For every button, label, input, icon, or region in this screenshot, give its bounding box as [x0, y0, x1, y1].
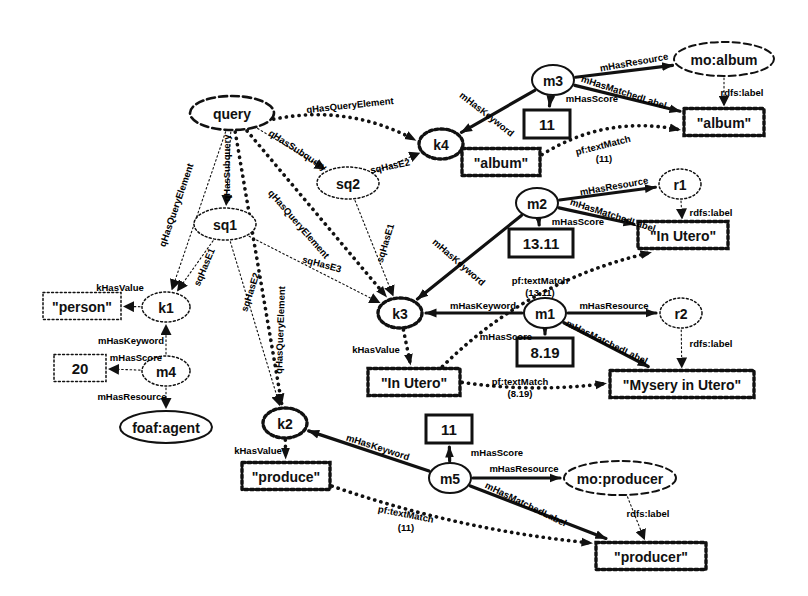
node-m3[interactable]: m3 [532, 65, 574, 95]
node-k2[interactable]: k2 [263, 408, 307, 438]
edge-label-el_q_k1: qHasQueryElement [157, 161, 196, 248]
node-label-m2: m2 [527, 196, 547, 212]
edge-label-el_m1_s: mHasScore [480, 331, 532, 342]
edge-label-el_m4_k1: mHasKeyword [98, 335, 164, 346]
rdf-graph-svg: querysq1sq2k1k2k3k4m1m2m3m4m5r1r2mo:albu… [0, 0, 808, 596]
diagram-canvas: querysq1sq2k1k2k3k4m1m2m3m4m5r1r2mo:albu… [0, 0, 808, 596]
node-m5[interactable]: m5 [429, 463, 471, 493]
node-label-n_11_m3: 11 [539, 116, 555, 133]
node-label-m5: m5 [440, 471, 460, 487]
node-b_album_k[interactable]: "album" [462, 149, 540, 176]
edge-label-el_k2_v: kHasValue [234, 445, 282, 456]
edge-r2-to-b_mysery [681, 330, 682, 367]
node-label-b_20: 20 [72, 360, 89, 377]
node-label-b_produce: "produce" [252, 469, 321, 485]
node-sq1[interactable]: sq1 [194, 208, 256, 240]
node-b_producer[interactable]: "producer" [596, 543, 706, 570]
node-b_mysery[interactable]: "Mysery in Utero" [610, 371, 754, 398]
edge-r1-to-b_inutero_r [681, 201, 682, 218]
node-b_person[interactable]: "person" [43, 293, 121, 320]
edge-label-el_m1_ml: mHasMatchedLabel [564, 317, 649, 366]
node-label-foaf_agent: foaf:agent [132, 420, 200, 436]
node-b_inutero_k[interactable]: "In Utero" [368, 369, 460, 396]
node-n_819_m1[interactable]: 8.19 [517, 338, 573, 366]
edge-label-el_sq1_k1: sqHasE1 [191, 246, 217, 288]
edge-label-el_m3_k: mHasKeyword [458, 89, 517, 138]
edge-label-el_m4_s: mHasScore [110, 352, 162, 363]
node-mo_album[interactable]: mo:album [674, 42, 774, 76]
edge-label-el_rdfs2: rdfs:label [690, 207, 733, 218]
edge-label-el_pf2b: (13.11) [525, 287, 555, 298]
edge-m2-to-n_1311_m2 [539, 220, 540, 225]
node-n_11_m5[interactable]: 11 [426, 415, 472, 443]
node-label-mo_producer: mo:producer [577, 471, 664, 487]
node-label-k3: k3 [392, 306, 408, 322]
edge-label-el_m1_r: mHasResource [579, 300, 648, 311]
node-b_produce[interactable]: "produce" [242, 463, 330, 490]
node-label-m4: m4 [156, 364, 176, 380]
node-n_1311_m2[interactable]: 13.11 [509, 229, 573, 257]
edge-m3-to-n_11_m3 [549, 97, 550, 106]
node-k3[interactable]: k3 [378, 298, 422, 328]
edge-label-el_pf3b: (8.19) [508, 388, 533, 399]
node-label-m3: m3 [543, 73, 563, 89]
node-k4[interactable]: k4 [419, 129, 463, 159]
edge-label-el_rdfs1: rdfs:label [721, 87, 764, 98]
edge-label-el_m2_s: mHasScore [552, 216, 604, 227]
node-label-b_album_k: "album" [474, 155, 529, 171]
edge-label-el_pf3: pf:textMatch [492, 376, 549, 387]
edge-label-el_q_sq1: qHasSubquery [221, 134, 232, 202]
node-label-r1: r1 [673, 177, 686, 193]
edge-label-el_rdfs4: rdfs:label [627, 508, 670, 519]
edge-label-el_pf1b: (11) [596, 153, 612, 164]
edge-label-el_m4_r: mHasResource [97, 391, 166, 402]
node-label-sq1: sq1 [213, 217, 237, 233]
node-b_20[interactable]: 20 [54, 355, 106, 382]
node-label-b_inutero_k: "In Utero" [381, 375, 447, 391]
edge-k3-to-b_inutero_k [403, 330, 410, 365]
node-label-b_person: "person" [52, 299, 112, 315]
edge-label-el_k1_v: kHasValue [96, 282, 144, 293]
edge-label-el_q_k2: qHasQueryElement [273, 285, 287, 374]
edge-label-el_k3_v: kHasValue [352, 344, 400, 355]
node-layer: querysq1sq2k1k2k3k4m1m2m3m4m5r1r2mo:albu… [43, 42, 774, 570]
edge-label-el_sq2_k4: sqHasE2 [369, 156, 411, 175]
node-label-n_1311_m2: 13.11 [523, 235, 560, 252]
node-label-n_11_m5: 11 [441, 421, 457, 438]
edge-label-el_m5_r: mHasResource [489, 463, 558, 474]
node-r1[interactable]: r1 [659, 169, 701, 199]
node-label-b_inutero_r: "In Utero" [650, 228, 716, 244]
node-m1[interactable]: m1 [524, 298, 566, 328]
node-label-k1: k1 [158, 300, 174, 316]
node-b_album_r[interactable]: "album" [684, 109, 764, 136]
node-r2[interactable]: r2 [660, 298, 702, 328]
node-n_11_m3[interactable]: 11 [524, 110, 570, 138]
edge-label-el_m1_k: mHasKeyword [450, 300, 516, 311]
edge-m4-to-b_20 [110, 369, 140, 370]
edge-label-el_rdfs3: rdfs:label [690, 338, 733, 349]
edge-m2-to-k3 [418, 216, 522, 299]
edge-label-el_sq1_k2: sqHasE2 [239, 271, 262, 313]
edge-label-el_sq2_k3: sqHasE1 [374, 222, 396, 264]
node-label-m1: m1 [535, 306, 555, 322]
edge-label-el_pf2: pf:textMatch [512, 275, 569, 286]
node-label-b_mysery: "Mysery in Utero" [623, 377, 741, 393]
node-label-k2: k2 [277, 416, 293, 432]
node-label-query: query [213, 106, 251, 122]
edge-query-to-k4 [274, 115, 416, 141]
edge-label-el_m5_ml: mHasMatchedLabel [483, 479, 568, 528]
node-label-sq2: sq2 [336, 176, 360, 192]
edge-label-el_pf4b: (11) [398, 522, 414, 533]
node-label-n_819_m1: 8.19 [530, 344, 559, 361]
node-m2[interactable]: m2 [516, 188, 558, 218]
node-label-b_album_r: "album" [697, 115, 752, 131]
node-label-b_producer: "producer" [614, 549, 688, 565]
node-label-mo_album: mo:album [691, 52, 758, 68]
node-label-k4: k4 [433, 137, 449, 153]
edge-label-el_m5_s: mHasScore [471, 447, 523, 458]
edge-label-el_m3_s: mHasScore [566, 93, 618, 104]
node-k1[interactable]: k1 [142, 292, 190, 322]
node-foaf_agent[interactable]: foaf:agent [120, 411, 212, 443]
node-mo_producer[interactable]: mo:producer [564, 461, 676, 495]
node-query[interactable]: query [190, 96, 274, 130]
